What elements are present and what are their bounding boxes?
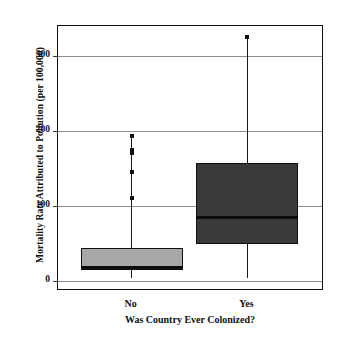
y-tick-mark-100 <box>53 206 58 207</box>
outlier-point <box>130 196 134 200</box>
outlier-point <box>130 148 134 152</box>
median-line-yes <box>196 216 298 219</box>
median-line-no <box>81 266 183 269</box>
y-tick-label-200: 200 <box>10 125 50 135</box>
x-tick-label-yes: Yes <box>206 298 286 309</box>
box-yes <box>196 26 298 289</box>
box-rect-yes <box>196 163 298 244</box>
outlier-stem-yes <box>247 37 248 163</box>
whisker-lower-no <box>131 270 132 278</box>
plot-inner <box>58 26 322 289</box>
outlier-point <box>130 151 134 155</box>
y-tick-label-100: 100 <box>10 200 50 210</box>
whisker-upper-no <box>131 237 132 248</box>
box-no <box>81 26 183 289</box>
outlier-point <box>130 170 134 174</box>
outlier-point <box>130 134 134 138</box>
y-tick-mark-200 <box>53 131 58 132</box>
x-tick-label-no: No <box>91 298 171 309</box>
whisker-lower-yes <box>247 244 248 278</box>
outlier-point <box>245 35 249 39</box>
y-tick-label-300: 300 <box>10 50 50 60</box>
y-tick-mark-0 <box>53 281 58 282</box>
y-tick-mark-300 <box>53 56 58 57</box>
y-tick-label-0: 0 <box>10 275 50 285</box>
boxplot-chart: Mortality Rate Attributed to Pollution (… <box>0 0 364 342</box>
x-axis-title: Was Country Ever Colonized? <box>57 314 323 325</box>
plot-area <box>57 25 323 290</box>
